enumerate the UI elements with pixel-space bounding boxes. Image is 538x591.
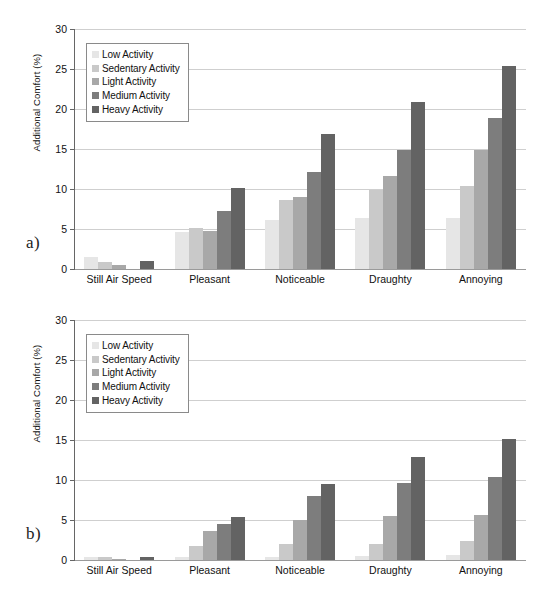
y-tick-label-20: 20 [55,103,67,115]
legend-label: Heavy Activity [102,104,163,115]
bar [460,186,474,269]
x-axis-label: Pleasant [164,564,254,576]
legend-label: Light Activity [102,367,156,378]
legend-item: Medium Activity [92,89,180,103]
bar [397,150,411,269]
bar [488,477,502,560]
bar-group [255,29,345,269]
bar [355,556,369,560]
legend-swatch-icon [92,383,99,390]
x-axis-label: Pleasant [164,273,254,285]
y-tick-label-10: 10 [55,183,67,195]
bar [98,262,112,269]
bar [397,483,411,560]
legend-label: Low Activity [102,340,153,351]
y-tick-label-10: 10 [55,474,67,486]
bar [321,134,335,269]
legend-item: Sedentary Activity [92,353,180,367]
bar [383,516,397,560]
bar [446,555,460,560]
x-axis-label: Draughty [345,273,435,285]
bar [189,228,203,269]
y-axis-title-a: Additional Comfort (%) [31,23,42,183]
legend-label: Medium Activity [102,90,170,101]
x-axis-label: Draughty [345,564,435,576]
bar [203,531,217,560]
bar [474,150,488,269]
bar [84,557,98,560]
y-axis-title-b: Additional Comfort (%) [31,314,42,474]
x-axis-label: Still Air Speed [74,273,164,285]
bar [231,517,245,560]
bar [98,557,112,560]
legend-item: Low Activity [92,48,180,62]
legend-item: Heavy Activity [92,102,180,116]
bar [265,220,279,269]
figure-container: a) Additional Comfort (%) 051015202530 S… [0,0,538,591]
legend-swatch-icon [92,78,99,85]
y-tick-label-15: 15 [55,143,67,155]
y-tick-label-5: 5 [61,514,67,526]
y-tick-label-30: 30 [55,23,67,35]
panel-label-a: a) [26,233,40,253]
bar [502,439,516,560]
y-tick-label-20: 20 [55,394,67,406]
bar-group [436,29,526,269]
legend-label: Medium Activity [102,381,170,392]
bar [411,102,425,269]
bar [307,496,321,560]
x-axis-label: Noticeable [255,273,345,285]
gridline-0 [74,269,526,270]
legend-label: Sedentary Activity [102,354,180,365]
bar-group [345,29,435,269]
legend-item: Medium Activity [92,380,180,394]
bar [355,218,369,269]
bar [446,218,460,269]
y-tick-label-0: 0 [61,554,67,566]
legend-item: Light Activity [92,366,180,380]
legend-item: Sedentary Activity [92,62,180,76]
bar [203,231,217,269]
legend-swatch-icon [92,342,99,349]
x-axis-labels-b: Still Air SpeedPleasantNoticeableDraught… [74,564,526,576]
legend-label: Sedentary Activity [102,63,180,74]
y-tick-label-5: 5 [61,223,67,235]
legend-swatch-icon [92,397,99,404]
bar [217,524,231,560]
legend-swatch-icon [92,106,99,113]
bar [369,190,383,269]
bar [217,211,231,269]
bar [175,232,189,269]
bar [112,265,126,269]
bar [293,520,307,560]
chart-panel-b: b) Additional Comfort (%) 051015202530 S… [0,296,538,586]
y-tick-label-25: 25 [55,354,67,366]
x-axis-label: Annoying [436,564,526,576]
y-tick-mark-0 [70,560,75,561]
bar [321,484,335,560]
bar [265,557,279,560]
legend-label: Light Activity [102,76,156,87]
legend-item: Heavy Activity [92,393,180,407]
bar [231,188,245,269]
x-axis-label: Annoying [436,273,526,285]
bar [140,261,154,269]
chart-panel-a: a) Additional Comfort (%) 051015202530 S… [0,5,538,295]
y-tick-label-15: 15 [55,434,67,446]
legend-swatch-icon [92,65,99,72]
y-tick-label-30: 30 [55,314,67,326]
bar [189,546,203,560]
legend-a: Low ActivitySedentary ActivityLight Acti… [86,43,189,122]
bar [474,515,488,560]
bar [293,197,307,269]
bar [369,544,383,560]
bar [502,66,516,269]
y-tick-mark-0 [70,269,75,270]
bar [411,457,425,560]
legend-label: Heavy Activity [102,395,163,406]
y-tick-label-0: 0 [61,263,67,275]
legend-swatch-icon [92,51,99,58]
bar [307,172,321,269]
legend-label: Low Activity [102,49,153,60]
panel-label-b: b) [26,524,41,544]
